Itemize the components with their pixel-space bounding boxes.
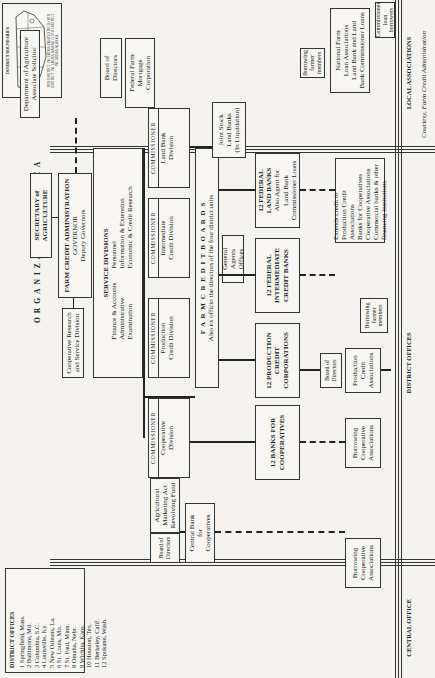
connector	[219, 274, 255, 276]
flb-label: 12 FEDERAL	[257, 169, 265, 211]
cbc-label: for	[196, 529, 204, 537]
cbc-label: Cooperatives	[204, 515, 212, 552]
dashed-connector	[215, 531, 345, 533]
dashed-connector	[300, 441, 345, 443]
nfla-label: Loan Associations	[342, 25, 350, 77]
connector	[190, 146, 212, 148]
ec-label: financing institutions	[380, 181, 388, 240]
flb-label: LAND BANKS	[265, 168, 273, 214]
bfc-label: 12 BANKS FOR	[269, 418, 277, 467]
fcb-subtitle: Also ex officio the directors of the fou…	[207, 195, 215, 341]
cooperative-division-box: COMMISSIONER Cooperative Division	[148, 398, 190, 478]
dept-agriculture-solicitor-box: Department of Agriculture Associate Soli…	[20, 30, 40, 118]
connector	[190, 441, 255, 443]
board-label: Board of	[158, 537, 165, 558]
board-label: Directors	[111, 55, 119, 81]
production-credit-corps-box: 12 PRODUCTION CREDIT CORPORATIONS	[255, 323, 300, 398]
commissioner-label: COMMISSIONER	[149, 299, 159, 377]
connector	[73, 298, 74, 308]
pca-label: Credit	[359, 362, 367, 380]
ag-marketing-fund-box: Agricultural Marketing Act Revolving Fun…	[150, 478, 180, 533]
federal-land-banks-box: 12 FEDERAL LAND BANKS Also Agent for Lan…	[255, 153, 300, 228]
board-label: Board of	[103, 56, 111, 81]
row-label-central-office: CENTRAL OFFICE	[405, 588, 413, 668]
district-item: 3 Columbia, S.C.	[33, 573, 40, 668]
district-offices-list: DISTRICT OFFICES 1 Springfield, Mass. 2 …	[5, 568, 85, 673]
coop-research-box: Cooperative Research and Service Divisio…	[62, 308, 84, 378]
division-label: Credit Division	[167, 216, 175, 259]
district-item: 7 St. Paul, Minn.	[63, 573, 70, 668]
borrowing-farmers-box-nfla: Borrowing farmer members	[300, 48, 325, 78]
board-label: Directors	[165, 537, 172, 559]
district-item: 10 Houston, Tex.	[85, 573, 92, 668]
service-item: Examination	[126, 283, 134, 340]
commissioner-label: COMMISSIONER	[149, 109, 159, 187]
column-divider	[395, 0, 402, 678]
bf-label: farmer members	[309, 51, 323, 75]
bfc-label: COOPERATIVES	[278, 415, 286, 471]
connector	[143, 148, 145, 438]
nfla-label: Land Bank and Land	[350, 21, 358, 80]
ffmc-label: Federal Farm	[128, 54, 136, 92]
ec-label: Commercial banks & other	[372, 164, 380, 240]
ec-label: Banks for Cooperatives	[356, 174, 364, 240]
deputy-governors-label: Deputy Governors	[79, 210, 87, 262]
bc-label: Cooperative	[359, 426, 367, 460]
clb-label: loan borrowers	[382, 5, 396, 35]
division-label: Credit Division	[167, 316, 175, 359]
secretary-of-agriculture-box: SECRETARY of AGRICULTURE	[30, 173, 52, 258]
bc-label: Borrowing	[351, 548, 359, 578]
joint-stock-land-banks-box: Joint Stock Land Banks (In Liquidation)	[212, 102, 246, 158]
bc-label: Borrowing	[351, 428, 359, 458]
ec-label: Extends credit to	[332, 193, 340, 240]
district-item: 12 Spokane, Wash.	[100, 573, 107, 668]
associate-solicitor-label: Associate Solicitor	[30, 47, 38, 100]
connector	[300, 369, 320, 371]
service-divisions-title: SERVICE DIVISIONS	[102, 228, 110, 297]
connector	[219, 359, 255, 361]
ec-label: Cooperative Associations	[364, 169, 372, 240]
division-label: Division	[167, 136, 175, 160]
borrowing-farmers-box-pca: Borrowing farmer members	[360, 298, 388, 333]
extends-credit-box: Extends credit to Production Credit Asso…	[335, 158, 385, 243]
bc-label: Cooperative	[359, 546, 367, 580]
national-farm-loan-assoc-box: National Farm Loan Associations Land Ban…	[330, 8, 370, 93]
ffmc-label: Corporation	[144, 56, 152, 90]
bc-label: Associations	[367, 425, 375, 461]
borrowing-coops-box-central: Borrowing Cooperative Associations	[345, 538, 381, 588]
farm-credit-boards-box: F A R M C R E D I T B O A R D S Also ex …	[195, 148, 219, 388]
flb-label: Land Bank	[282, 175, 290, 206]
row-label-district-offices: DISTRICT OFFICES	[405, 313, 413, 413]
connector	[143, 396, 195, 398]
clb-label: Commissioner	[375, 2, 382, 37]
pca-board-box: Board of Directors	[320, 353, 342, 388]
connector	[52, 217, 58, 218]
borrowing-coops-box-district: Borrowing Cooperative Associations	[345, 418, 381, 468]
service-divisions-box: SERVICE DIVISIONS Finance & Accounts Adm…	[93, 148, 143, 378]
bf-label: Borrowing	[302, 50, 309, 76]
commissioner-label: COMMISSIONER	[149, 399, 159, 477]
commissioner-loan-borrowers-box: Commissioner loan borrowers	[375, 2, 395, 38]
fca-label: FARM CREDIT ADMINISTRATION	[63, 179, 71, 293]
pca-label: Production	[351, 355, 359, 386]
division-label: Cooperative	[159, 421, 167, 455]
district-item: 5 New Orleans, La.	[48, 573, 55, 668]
jslb-label: Land Banks	[225, 113, 233, 147]
division-label: Intermediate	[159, 220, 167, 255]
fca-governor-box: FARM CREDIT ADMINISTRATION GOVERNOR Depu…	[58, 173, 92, 298]
coop-research-label: Cooperative Research	[65, 312, 73, 374]
intermediate-credit-division-box: COMMISSIONER Intermediate Credit Divisio…	[148, 198, 190, 278]
banks-for-cooperatives-box: 12 BANKS FOR COOPERATIVES	[255, 405, 300, 480]
board-label: Directors	[331, 359, 338, 381]
pcc-label: CORPORATIONS	[282, 332, 290, 389]
flb-label: Commissioner Loans	[290, 161, 298, 221]
connector	[219, 189, 255, 191]
dashed-connector	[300, 274, 335, 276]
production-credit-division-box: COMMISSIONER Production Credit Division	[148, 298, 190, 378]
ec-label: Production Credit Associations	[340, 161, 356, 240]
district-offices-title: DISTRICT OFFICES	[9, 573, 16, 668]
governor-label: GOVERNOR	[71, 216, 79, 255]
pca-label: Associations	[367, 353, 375, 389]
fcb-title: F A R M C R E D I T B O A R D S	[199, 202, 207, 335]
district-item: 2 Baltimore, Md.	[25, 573, 32, 668]
